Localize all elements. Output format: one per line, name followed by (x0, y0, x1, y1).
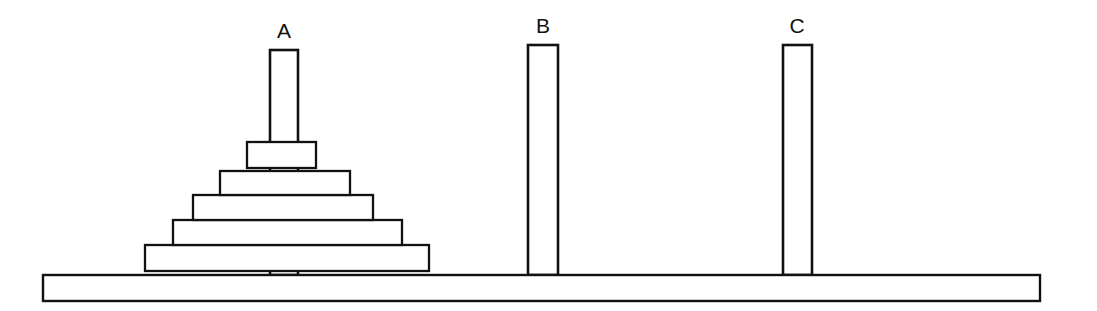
towers-of-hanoi-diagram: A B C (0, 0, 1097, 311)
peg-b-post (528, 45, 558, 275)
peg-c-post (783, 45, 812, 275)
disc-size-5 (145, 245, 429, 271)
disc-size-2 (220, 171, 350, 195)
disc-size-1 (247, 142, 316, 168)
hanoi-figure-canvas: A B C (0, 0, 1097, 311)
peg-c-label: C (789, 14, 804, 37)
peg-a-label: A (277, 19, 291, 42)
disc-size-4 (173, 220, 402, 245)
disc-size-3 (193, 195, 373, 220)
peg-b-label: B (536, 14, 550, 37)
base-bar (43, 275, 1040, 301)
